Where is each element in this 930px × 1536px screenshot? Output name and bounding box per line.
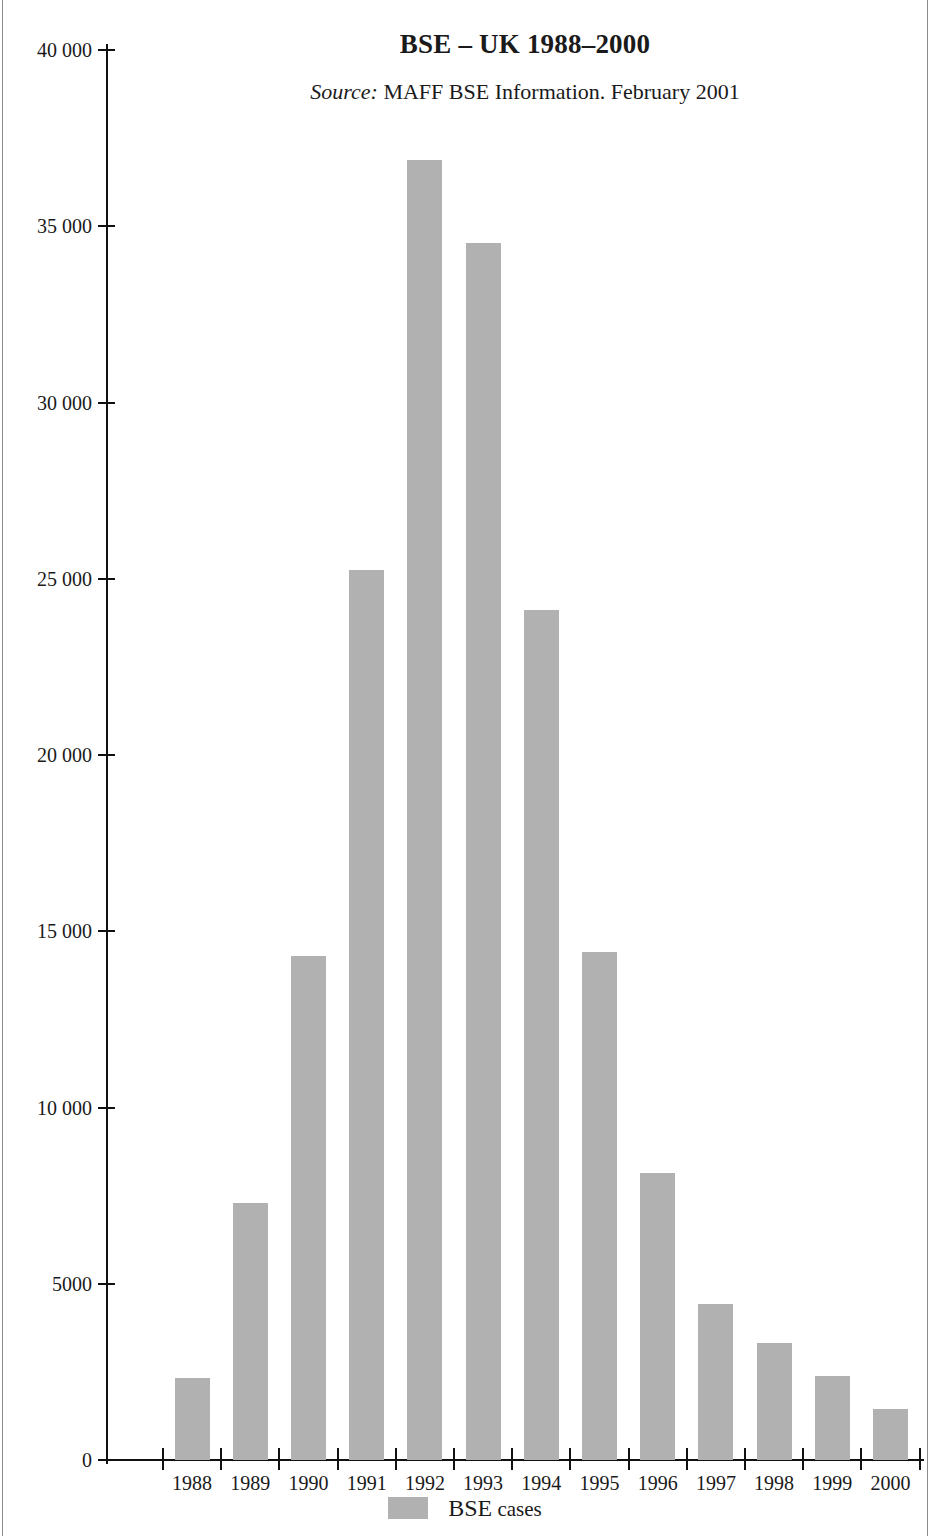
y-axis-tick xyxy=(98,225,115,227)
legend-label-sub: cases xyxy=(492,1497,542,1521)
bar xyxy=(815,1376,850,1460)
y-axis-tick-label: 40 000 xyxy=(4,40,92,60)
x-axis-tick-label: 1992 xyxy=(393,1473,457,1493)
x-axis-tick xyxy=(744,1448,746,1470)
x-axis-tick-label: 1989 xyxy=(218,1473,282,1493)
bar xyxy=(757,1343,792,1460)
x-axis-tick-label: 1994 xyxy=(509,1473,573,1493)
x-axis-tick-label: 1997 xyxy=(684,1473,748,1493)
bar xyxy=(873,1409,908,1460)
bar xyxy=(349,570,384,1460)
x-axis-tick xyxy=(860,1448,862,1470)
x-axis-tick-label: 1991 xyxy=(335,1473,399,1493)
x-axis-tick xyxy=(278,1448,280,1470)
bar xyxy=(233,1203,268,1460)
legend-label-main: BSE xyxy=(448,1495,492,1521)
y-axis-tick-label: 15 000 xyxy=(4,921,92,941)
x-axis-tick-label: 1988 xyxy=(160,1473,224,1493)
x-axis-tick xyxy=(162,1448,164,1470)
y-axis-tick-label: 30 000 xyxy=(4,393,92,413)
y-axis-tick xyxy=(98,754,115,756)
x-axis-tick xyxy=(453,1448,455,1470)
y-axis-tick xyxy=(98,402,115,404)
bar xyxy=(524,610,559,1460)
bse-bar-chart: BSE – UK 1988–2000 Source: MAFF BSE Info… xyxy=(0,0,930,1536)
y-axis-tick-label: 20 000 xyxy=(4,745,92,765)
bar xyxy=(582,952,617,1460)
y-axis-tick-label: 35 000 xyxy=(4,216,92,236)
source-label: Source: xyxy=(310,79,378,104)
x-axis-tick-label: 1998 xyxy=(742,1473,806,1493)
x-axis-tick-label: 1993 xyxy=(451,1473,515,1493)
bar xyxy=(466,243,501,1460)
y-axis-tick xyxy=(98,49,115,51)
x-axis-tick-label: 1996 xyxy=(626,1473,690,1493)
bar xyxy=(640,1173,675,1460)
y-axis-tick xyxy=(98,1459,115,1461)
x-axis-tick xyxy=(919,1448,921,1470)
source-text: MAFF BSE Information. February 2001 xyxy=(378,79,740,104)
bar xyxy=(407,160,442,1460)
legend-label-bse-cases: BSE cases xyxy=(448,1496,542,1520)
y-axis-tick xyxy=(98,1107,115,1109)
x-axis-tick-label: 1990 xyxy=(277,1473,341,1493)
y-axis-tick-label: 10 000 xyxy=(4,1098,92,1118)
x-axis-tick-label: 1999 xyxy=(800,1473,864,1493)
chart-title: BSE – UK 1988–2000 xyxy=(120,30,930,60)
x-axis-tick xyxy=(511,1448,513,1470)
x-axis-tick xyxy=(337,1448,339,1470)
x-axis-tick-label: 2000 xyxy=(859,1473,923,1493)
x-axis-tick xyxy=(569,1448,571,1470)
x-axis-tick xyxy=(686,1448,688,1470)
chart-legend: BSE cases xyxy=(0,1496,930,1520)
bar xyxy=(175,1378,210,1460)
x-axis-tick xyxy=(220,1448,222,1470)
x-axis-tick xyxy=(395,1448,397,1470)
y-axis-tick-label: 25 000 xyxy=(4,569,92,589)
legend-swatch-bse-cases xyxy=(388,1497,428,1519)
chart-subtitle: Source: MAFF BSE Information. February 2… xyxy=(120,80,930,104)
x-axis-tick xyxy=(628,1448,630,1470)
y-axis-tick-label: 0 xyxy=(4,1450,92,1470)
y-axis-tick xyxy=(98,930,115,932)
y-axis-tick-label: 5000 xyxy=(4,1274,92,1294)
bar xyxy=(698,1304,733,1460)
x-axis-tick xyxy=(802,1448,804,1470)
bar xyxy=(291,956,326,1460)
y-axis-tick xyxy=(98,1283,115,1285)
y-axis-tick xyxy=(98,578,115,580)
x-axis-tick-label: 1995 xyxy=(568,1473,632,1493)
